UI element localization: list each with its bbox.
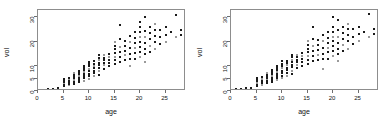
data-point xyxy=(317,49,319,51)
data-point xyxy=(281,63,283,65)
data-point xyxy=(266,77,268,79)
y-axis-title: vol xyxy=(3,48,10,57)
data-point xyxy=(358,33,360,35)
data-point xyxy=(322,40,324,42)
data-point xyxy=(312,50,314,52)
data-point xyxy=(124,50,126,52)
data-point xyxy=(88,73,90,75)
data-point xyxy=(93,65,95,67)
data-point xyxy=(88,78,90,80)
data-point xyxy=(129,35,131,37)
data-point xyxy=(73,79,75,81)
data-point xyxy=(286,72,288,74)
data-point xyxy=(291,64,293,66)
x-tick-label: 10 xyxy=(78,95,98,102)
data-point xyxy=(129,47,131,49)
data-point xyxy=(342,26,344,28)
data-point xyxy=(83,80,85,82)
data-point xyxy=(98,54,100,56)
data-point xyxy=(154,29,156,31)
data-point xyxy=(317,59,319,61)
data-point xyxy=(307,51,309,53)
data-point xyxy=(98,59,100,61)
data-point xyxy=(301,52,303,54)
data-point xyxy=(124,59,126,61)
data-point xyxy=(286,67,288,69)
data-point xyxy=(144,16,146,18)
data-point xyxy=(317,44,319,46)
data-point xyxy=(149,51,151,53)
data-point xyxy=(149,45,151,47)
data-point xyxy=(180,29,182,31)
data-point xyxy=(347,34,349,36)
data-point xyxy=(312,38,314,40)
data-point xyxy=(296,61,298,63)
y-tick-label: 30 xyxy=(222,16,229,36)
data-point xyxy=(286,69,288,71)
data-point xyxy=(78,79,80,81)
data-point xyxy=(103,57,105,59)
data-point xyxy=(139,41,141,43)
data-point xyxy=(286,75,288,77)
data-point xyxy=(88,65,90,67)
data-point xyxy=(337,48,339,50)
data-point xyxy=(165,41,167,43)
data-point xyxy=(83,67,85,69)
data-point xyxy=(139,26,141,28)
data-point xyxy=(312,45,314,47)
data-point xyxy=(276,71,278,73)
data-point xyxy=(347,48,349,50)
data-point xyxy=(307,63,309,65)
data-point xyxy=(139,31,141,33)
data-point xyxy=(154,48,156,50)
data-point xyxy=(347,28,349,30)
x-tick-label: 15 xyxy=(104,95,124,102)
data-point xyxy=(281,67,283,69)
data-point xyxy=(281,65,283,67)
data-point xyxy=(245,87,247,89)
data-point xyxy=(266,82,268,84)
data-point xyxy=(286,60,288,62)
data-point xyxy=(98,62,100,64)
data-point xyxy=(271,71,273,73)
y-tick-label: 20 xyxy=(29,41,36,61)
data-point xyxy=(98,74,100,76)
data-point xyxy=(307,44,309,46)
data-point xyxy=(139,46,141,48)
data-point xyxy=(114,56,116,58)
data-point xyxy=(154,23,156,25)
data-point xyxy=(88,61,90,63)
data-point xyxy=(78,70,80,72)
x-tick-label: 5 xyxy=(53,95,73,102)
data-point xyxy=(296,54,298,56)
data-point xyxy=(271,73,273,75)
data-point xyxy=(276,75,278,77)
data-point xyxy=(352,36,354,38)
x-tick-mark xyxy=(358,90,359,93)
data-point xyxy=(108,59,110,61)
data-point xyxy=(88,63,90,65)
data-point xyxy=(63,78,65,80)
y-tick-label: 30 xyxy=(29,16,36,36)
data-point xyxy=(317,54,319,56)
data-point xyxy=(312,26,314,28)
data-point xyxy=(73,83,75,85)
data-point xyxy=(134,31,136,33)
data-point xyxy=(240,88,242,89)
data-point xyxy=(332,40,334,42)
data-point xyxy=(129,53,131,55)
y-tick-label: 10 xyxy=(222,65,229,85)
x-tick-mark xyxy=(230,90,231,93)
data-point xyxy=(286,64,288,66)
data-point xyxy=(180,34,182,36)
data-point xyxy=(88,68,90,70)
data-point xyxy=(129,58,131,60)
data-point xyxy=(114,52,116,54)
data-point xyxy=(301,61,303,63)
data-point xyxy=(332,36,334,38)
x-axis-title: age xyxy=(230,108,378,115)
data-point xyxy=(83,75,85,77)
x-tick-label: 20 xyxy=(129,95,149,102)
data-point xyxy=(165,26,167,28)
data-point xyxy=(154,35,156,37)
